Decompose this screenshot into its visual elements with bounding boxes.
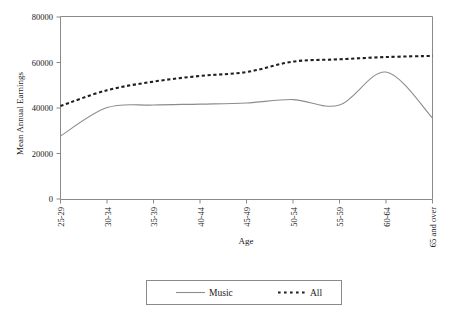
x-axis: 25-29 30-34 35-39 40-44 45-49 50-54 55-5… <box>56 200 438 248</box>
y-tick-label-60000: 60000 <box>32 58 53 68</box>
chart-container: 80000 60000 40000 20000 0 Mean Annual Ea… <box>0 0 454 313</box>
y-tick-label-0: 0 <box>49 194 53 204</box>
plot-border <box>61 17 433 200</box>
x-tick-label-30-34: 30-34 <box>103 206 113 227</box>
x-tick-label-55-59: 55-59 <box>335 207 345 227</box>
y-tick-label-80000: 80000 <box>32 12 53 22</box>
y-axis: 80000 60000 40000 20000 0 Mean Annual Ea… <box>15 12 61 204</box>
x-axis-title: Age <box>239 236 254 246</box>
plot-frame <box>61 17 433 200</box>
x-tick-label-35-39: 35-39 <box>149 207 159 227</box>
x-tick-label-40-44: 40-44 <box>196 206 206 227</box>
x-tick-label-65-and-over: 65 and over <box>428 207 438 247</box>
y-tick-label-20000: 20000 <box>32 149 53 159</box>
legend-label-music: Music <box>209 288 233 298</box>
y-tick-label-40000: 40000 <box>32 103 53 113</box>
legend-label-all: All <box>310 288 323 298</box>
x-tick-label-60-64: 60-64 <box>382 206 392 227</box>
x-tick-label-50-54: 50-54 <box>289 206 299 227</box>
x-tick-label-45-49: 45-49 <box>242 207 252 227</box>
chart-legend: Music All <box>147 281 342 305</box>
series-line-music <box>61 72 433 136</box>
series-line-all <box>61 56 433 106</box>
y-axis-title: Mean Annual Earnings <box>15 72 25 155</box>
data-series-group <box>61 56 433 136</box>
earnings-by-age-line-chart: 80000 60000 40000 20000 0 Mean Annual Ea… <box>0 0 454 313</box>
x-tick-label-25-29: 25-29 <box>56 207 66 227</box>
